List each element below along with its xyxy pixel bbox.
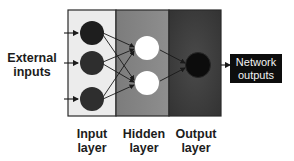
hidden-layer-label: Hidden layer	[118, 127, 170, 155]
network-outputs-label: Network outputs	[230, 56, 282, 82]
output-layer-label-line2: layer	[170, 141, 222, 155]
hidden-layer-label-line2: layer	[118, 141, 170, 155]
input-layer-label-line2: layer	[66, 141, 118, 155]
hidden-node-2	[135, 71, 159, 95]
input-node-3	[80, 87, 104, 111]
input-layer-label-line1: Input	[66, 127, 118, 141]
output-node	[186, 53, 211, 78]
external-inputs-label: External inputs	[4, 51, 60, 79]
network-outputs-box: Network outputs	[230, 54, 282, 83]
hidden-layer-panel	[116, 10, 169, 116]
input-node-1	[80, 21, 104, 45]
neural-network-diagram: External inputs Network outputs Input la…	[0, 0, 294, 161]
input-node-2	[80, 51, 104, 75]
output-layer-label: Output layer	[170, 127, 222, 155]
hidden-layer-label-line1: Hidden	[118, 127, 170, 141]
output-layer-label-line1: Output	[170, 127, 222, 141]
input-layer-label: Input layer	[66, 127, 118, 155]
hidden-node-1	[135, 36, 159, 60]
